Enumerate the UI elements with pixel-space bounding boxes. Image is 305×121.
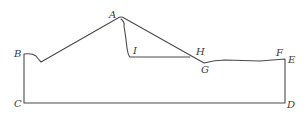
label-point-h: H <box>195 46 205 57</box>
cross-section-diagram: A B C D E F G H I <box>0 0 305 121</box>
label-point-g: G <box>201 64 209 75</box>
label-point-c: C <box>14 98 22 109</box>
label-point-f: F <box>275 47 284 58</box>
label-point-e: E <box>287 54 296 65</box>
label-point-b: B <box>13 48 21 59</box>
outer-boundary-line <box>24 17 285 103</box>
label-point-d: D <box>286 99 295 110</box>
label-point-a: A <box>108 9 116 20</box>
inner-face-line <box>121 19 190 57</box>
label-point-i: I <box>132 45 138 56</box>
